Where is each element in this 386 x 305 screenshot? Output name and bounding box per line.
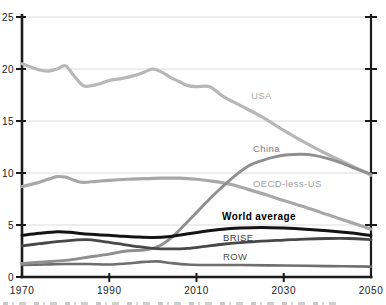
series-label-oecd-less-us: OECD-less-US <box>253 178 322 189</box>
y-tick-label-0: 0 <box>8 272 14 283</box>
x-tick-label-1990: 1990 <box>97 285 122 296</box>
x-tick-label-2010: 2010 <box>184 285 209 296</box>
chart-figure: 051015202519701990201020302050USAOECD-le… <box>0 0 386 305</box>
y-tick-label-15: 15 <box>2 116 14 127</box>
series-line-brise <box>22 238 371 249</box>
x-tick-label-2030: 2030 <box>271 285 296 296</box>
y-tick-label-20: 20 <box>2 64 14 75</box>
series-line-world-average <box>22 228 371 238</box>
series-line-row <box>22 261 371 266</box>
series-label-row: ROW <box>223 251 247 262</box>
series-line-usa <box>22 64 371 175</box>
series-label-world-average: World average <box>222 211 296 222</box>
y-tick-label-5: 5 <box>8 220 14 231</box>
chart-canvas: 051015202519701990201020302050USAOECD-le… <box>0 0 386 305</box>
series-label-brise: BRISE <box>223 232 254 243</box>
series-label-china: China <box>253 143 280 154</box>
x-tick-label-1970: 1970 <box>10 285 35 296</box>
y-tick-label-25: 25 <box>2 12 14 23</box>
series-label-usa: USA <box>251 90 272 101</box>
y-tick-label-10: 10 <box>2 168 14 179</box>
x-tick-label-2050: 2050 <box>359 285 384 296</box>
